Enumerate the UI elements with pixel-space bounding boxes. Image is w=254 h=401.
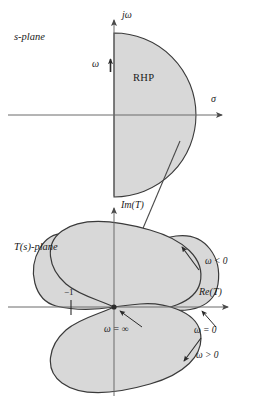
splane-title: s-plane [14,32,45,43]
minus-one-label: −1 [64,288,74,297]
nyquist-lower-lobe [50,304,201,393]
rhp-region-label: RHP [133,73,154,84]
splane-sigma-label: σ [211,94,216,104]
tplane-im-label: Im(T) [121,200,144,210]
omega-zero-label: ω = 0 [194,326,217,336]
splane-omega-marker-label: ω [92,59,99,69]
origin-point [111,304,116,309]
omega-infinity-label: ω = ∞ [104,325,129,335]
tplane-title: T(s)-plane [14,242,58,253]
splane-group [8,20,222,197]
tplane-re-label: Re(T) [199,287,222,297]
omega-negative-label: ω < 0 [205,257,228,267]
omega-positive-label: ω > 0 [196,351,219,361]
nyquist-mapping-figure: s-plane jω ω RHP σ T(s)-plane Im(T) Re(T… [0,0,254,401]
splane-jomega-label: jω [122,10,132,20]
tplane-group [8,208,228,396]
